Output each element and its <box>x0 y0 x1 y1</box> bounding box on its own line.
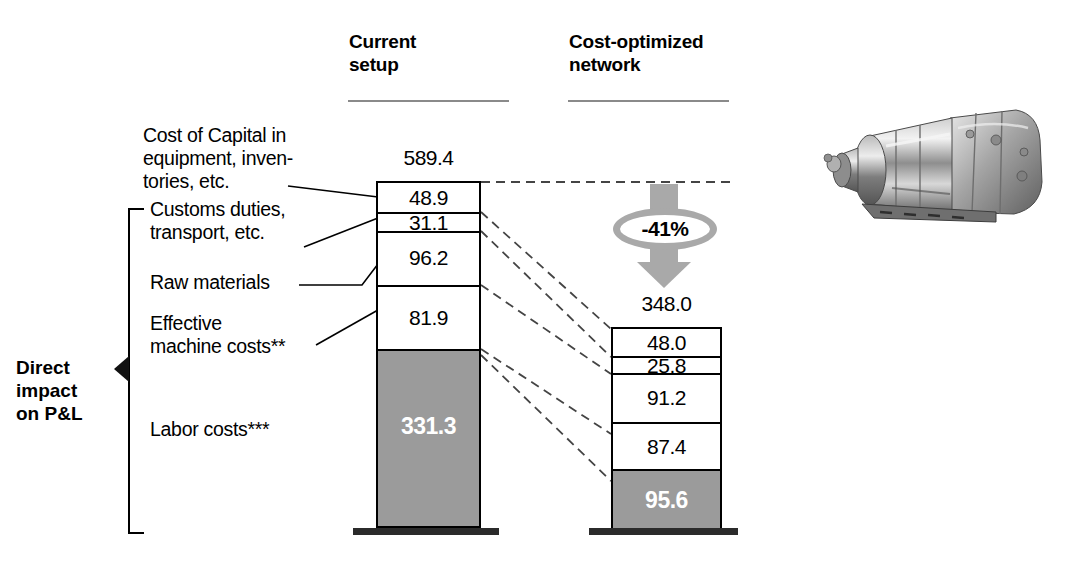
left-bar-segment-cost-of-capital[interactable]: 48.9 <box>378 183 479 214</box>
right-bar-base <box>589 528 738 535</box>
column-header-cost-optimized-rule <box>568 100 729 102</box>
column-header-current-setup-line1: Current <box>349 30 539 53</box>
direct-impact-label: Direct impact on P&L <box>16 356 126 425</box>
right-bar-segment-raw-materials[interactable]: 91.2 <box>613 375 720 424</box>
right-bar[interactable]: 48.0 25.8 91.2 87.4 95.6 <box>611 327 722 528</box>
transmission-gearbox-photo <box>800 100 1060 250</box>
left-bar[interactable]: 48.9 31.1 96.2 81.9 331.3 <box>376 181 481 528</box>
left-bar-base <box>353 528 499 535</box>
left-bar-segment-machine-costs[interactable]: 81.9 <box>378 287 479 351</box>
column-header-current-setup-rule <box>348 100 509 102</box>
direct-impact-line3: on P&L <box>16 402 126 425</box>
direct-impact-bracket <box>128 208 144 534</box>
dashed-connector-4 <box>481 349 611 434</box>
left-bar-value-2: 31.1 <box>378 211 479 235</box>
delta-arrow: -41% <box>613 184 723 289</box>
delta-arrow-head-icon <box>637 262 691 288</box>
right-bar-value-3: 91.2 <box>613 386 720 410</box>
right-bar-value-1: 48.0 <box>613 331 720 355</box>
label-cost-of-capital-line1: Cost of Capital in <box>143 124 373 147</box>
left-bar-total: 589.4 <box>376 146 481 170</box>
label-customs-duties-line1: Customs duties, <box>150 198 380 221</box>
label-customs-duties-line2: transport, etc. <box>150 221 380 244</box>
left-bar-segment-labor-costs[interactable]: 331.3 <box>378 351 479 526</box>
dashed-connector-2 <box>481 231 611 357</box>
label-raw-materials: Raw materials <box>150 271 380 294</box>
column-header-cost-optimized-line1: Cost-optimized <box>569 30 789 53</box>
label-labor-costs: Labor costs*** <box>150 418 380 441</box>
right-bar-total: 348.0 <box>611 292 722 316</box>
right-bar-segment-customs[interactable]: 25.8 <box>613 358 720 375</box>
right-bar-segment-machine-costs[interactable]: 87.4 <box>613 424 720 471</box>
column-header-cost-optimized-network: Cost-optimized network <box>569 30 789 76</box>
label-customs-duties: Customs duties, transport, etc. <box>150 198 380 244</box>
label-effective-machine-costs: Effective machine costs** <box>150 312 380 358</box>
right-bar-value-5: 95.6 <box>613 487 720 514</box>
direct-impact-line2: impact <box>16 379 126 402</box>
label-cost-of-capital: Cost of Capital in equipment, inven- tor… <box>143 124 373 193</box>
dashed-connector-5 <box>481 355 611 481</box>
delta-badge-value: -41% <box>641 217 688 241</box>
right-bar-value-4: 87.4 <box>613 435 720 459</box>
dashed-connector-3 <box>481 285 611 374</box>
label-cost-of-capital-line2: equipment, inven- <box>143 147 373 170</box>
dashed-connector-1 <box>481 212 611 329</box>
left-bar-segment-raw-materials[interactable]: 96.2 <box>378 233 479 287</box>
right-bar-segment-labor-costs[interactable]: 95.6 <box>613 471 720 530</box>
left-bar-value-3: 96.2 <box>378 246 479 270</box>
left-bar-value-1: 48.9 <box>378 186 479 210</box>
label-effective-machine-costs-line1: Effective <box>150 312 380 335</box>
left-bar-value-5: 331.3 <box>378 413 479 440</box>
label-effective-machine-costs-line2: machine costs** <box>150 335 380 358</box>
direct-impact-line1: Direct <box>16 356 126 379</box>
column-header-current-setup-line2: setup <box>349 53 539 76</box>
left-bar-segment-customs[interactable]: 31.1 <box>378 214 479 233</box>
column-header-current-setup: Current setup <box>349 30 539 76</box>
left-bar-value-4: 81.9 <box>378 306 479 330</box>
column-header-cost-optimized-line2: network <box>569 53 789 76</box>
label-cost-of-capital-line3: tories, etc. <box>143 170 373 193</box>
delta-badge: -41% <box>613 208 717 250</box>
